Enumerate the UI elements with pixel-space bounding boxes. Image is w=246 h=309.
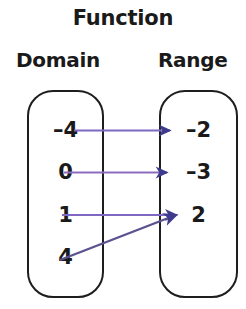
diagram-title: Function <box>0 6 246 30</box>
domain-value-1: 0 <box>27 162 104 183</box>
domain-value-3: 4 <box>27 247 104 268</box>
mapping-diagram: Function Domain Range –4 0 1 4 –2 –3 2 <box>0 0 246 309</box>
domain-value-0: –4 <box>27 120 104 141</box>
range-label: Range <box>158 48 228 72</box>
range-value-1: –3 <box>159 162 238 183</box>
range-value-2: 2 <box>159 205 238 226</box>
domain-value-2: 1 <box>27 205 104 226</box>
range-value-0: –2 <box>159 120 238 141</box>
domain-label: Domain <box>16 48 100 72</box>
